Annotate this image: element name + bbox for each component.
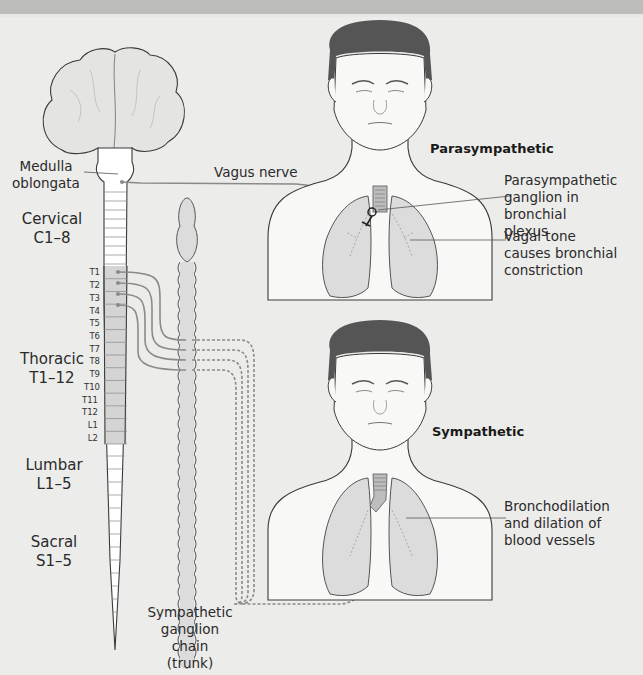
label-vt-line1: Vagal tone	[504, 228, 617, 245]
segment-label-t2: T2	[70, 280, 100, 290]
label-parasympathetic: Parasympathetic	[430, 140, 554, 157]
segment-label-l1: L1	[68, 420, 98, 430]
label-pg-line2: ganglion in bronchial	[504, 189, 643, 223]
label-bronchodilation: Bronchodilation and dilation of blood ve…	[504, 498, 610, 549]
label-cervical: Cervical C1–8	[20, 210, 84, 248]
label-ganglion-line2: ganglion chain	[142, 621, 238, 655]
label-vt-line2: causes bronchial	[504, 245, 617, 262]
segment-label-t3: T3	[70, 293, 100, 303]
segment-label-t1: T1	[70, 267, 100, 277]
label-pg-line1: Parasympathetic	[504, 172, 643, 189]
segment-label-l2: L2	[68, 433, 98, 443]
sympathetic-chain	[177, 198, 198, 668]
label-vt-line3: constriction	[504, 262, 617, 279]
segment-label-t7: T7	[70, 344, 100, 354]
segment-label-t10: T10	[70, 382, 100, 392]
segment-label-t12: T12	[68, 407, 98, 417]
label-bd-line3: blood vessels	[504, 532, 610, 549]
label-cervical-line2: C1–8	[20, 229, 84, 248]
label-sacral: Sacral S1–5	[22, 533, 86, 571]
label-medulla-line2: oblongata	[8, 175, 84, 192]
segment-label-t4: T4	[70, 306, 100, 316]
torso-sympathetic	[268, 320, 506, 600]
label-vagal-tone: Vagal tone causes bronchial constriction	[504, 228, 617, 279]
segment-label-t8: T8	[70, 356, 100, 366]
brain	[43, 48, 184, 154]
segment-label-t9: T9	[70, 369, 100, 379]
torso-parasympathetic	[268, 20, 510, 300]
spinal-cord	[96, 148, 133, 650]
label-lumbar-line1: Lumbar	[22, 456, 86, 475]
label-lumbar: Lumbar L1–5	[22, 456, 86, 494]
label-bd-line1: Bronchodilation	[504, 498, 610, 515]
label-medulla-line1: Medulla	[8, 158, 84, 175]
segment-label-t6: T6	[70, 331, 100, 341]
label-bd-line2: and dilation of	[504, 515, 610, 532]
label-ganglion-line3: (trunk)	[142, 655, 238, 672]
label-ganglion-chain: Sympathetic ganglion chain (trunk)	[142, 604, 238, 672]
label-sacral-line1: Sacral	[22, 533, 86, 552]
sympathetic-fibers	[118, 272, 186, 370]
label-sympathetic: Sympathetic	[432, 423, 524, 440]
segment-label-t11: T11	[68, 395, 98, 405]
label-medulla: Medulla oblongata	[8, 158, 84, 192]
segment-label-t5: T5	[70, 318, 100, 328]
label-lumbar-line2: L1–5	[22, 475, 86, 494]
label-ganglion-line1: Sympathetic	[142, 604, 238, 621]
label-vagus-nerve: Vagus nerve	[214, 164, 298, 181]
medulla-dot	[120, 180, 124, 184]
label-cervical-line1: Cervical	[20, 210, 84, 229]
label-sacral-line2: S1–5	[22, 552, 86, 571]
